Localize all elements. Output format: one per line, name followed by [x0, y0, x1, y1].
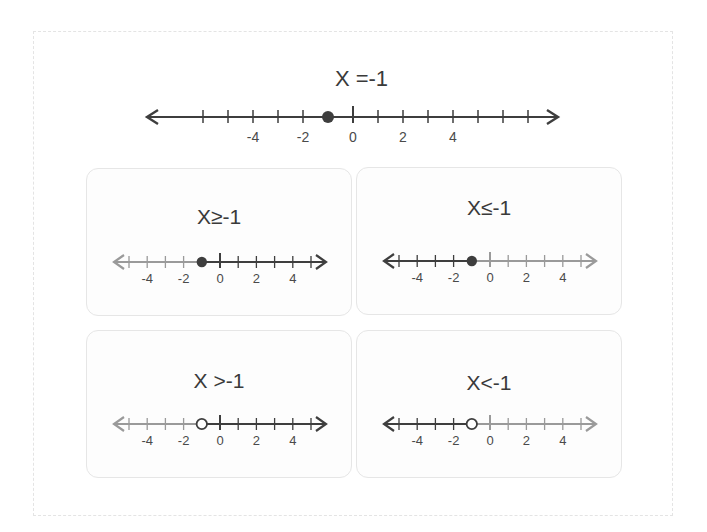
- tick-label: 4: [449, 129, 457, 145]
- tick-label: -2: [178, 271, 190, 286]
- tick-label: 4: [289, 433, 296, 448]
- number-line-less: -4-2024: [357, 331, 623, 479]
- tick-label: 2: [253, 433, 260, 448]
- open-point-marker: [197, 419, 207, 429]
- tick-label: 2: [253, 271, 260, 286]
- tick-label: 2: [523, 433, 530, 448]
- card-greater-equal: X≥-1 -4-2024: [86, 168, 352, 316]
- card-greater: X >-1 -4-2024: [86, 330, 352, 478]
- closed-point-marker: [467, 256, 477, 266]
- tick-label: 2: [523, 270, 530, 285]
- tick-label: 0: [349, 129, 357, 145]
- tick-label: 4: [559, 270, 566, 285]
- tick-label: -4: [141, 433, 153, 448]
- number-line-less-equal: -4-2024: [357, 168, 623, 316]
- tick-label: -2: [297, 129, 310, 145]
- number-line-greater: -4-2024: [87, 331, 353, 479]
- closed-point-marker: [322, 111, 334, 123]
- tick-label: -4: [247, 129, 260, 145]
- tick-label: 0: [216, 433, 223, 448]
- tick-label: -2: [448, 433, 460, 448]
- tick-label: 0: [216, 271, 223, 286]
- tick-label: -4: [411, 270, 423, 285]
- tick-label: 4: [559, 433, 566, 448]
- number-line-greater-equal: -4-2024: [87, 169, 353, 317]
- tick-label: 2: [399, 129, 407, 145]
- tick-label: 0: [486, 433, 493, 448]
- tick-label: -4: [411, 433, 423, 448]
- tick-label: -2: [178, 433, 190, 448]
- open-point-marker: [467, 419, 477, 429]
- tick-label: -2: [448, 270, 460, 285]
- tick-label: 4: [289, 271, 296, 286]
- card-less-equal: X≤-1 -4-2024: [356, 167, 622, 315]
- tick-label: 0: [486, 270, 493, 285]
- tick-label: -4: [141, 271, 153, 286]
- closed-point-marker: [197, 257, 207, 267]
- card-less: X<-1 -4-2024: [356, 330, 622, 478]
